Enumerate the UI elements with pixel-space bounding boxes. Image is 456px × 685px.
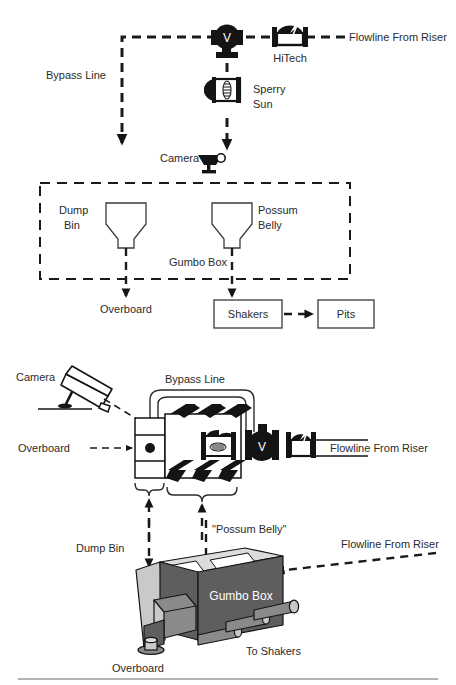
gumbo-box-label-3d: Gumbo Box	[209, 589, 272, 603]
dump-bin-funnel-icon	[106, 203, 146, 248]
gumbo-box-label-top: Gumbo Box	[169, 256, 228, 268]
hitech-meter-icon	[272, 23, 308, 47]
overboard-label-3d: Overboard	[112, 662, 164, 674]
gumbo-box-3d-icon: Gumbo Box	[136, 548, 299, 654]
diagram-svg: Flowline From Riser Bypass Line V Hi	[0, 0, 456, 685]
valve-icon: V	[245, 424, 279, 461]
flowline-to-box-dash	[277, 553, 436, 571]
possum-belly-label-bottom: "Possum Belly"	[212, 523, 287, 535]
sperry-sun-label-line1: Sperry	[253, 83, 286, 95]
bypass-line-label-bottom: Bypass Line	[165, 373, 225, 385]
flowline-from-riser-label-box: Flowline From Riser	[341, 538, 439, 550]
dump-bin-label-line1: Dump	[59, 204, 88, 216]
brace-dump-bin	[135, 483, 164, 496]
valve-symbol-label: V	[223, 31, 231, 45]
sperry-sun-label-line2: Sun	[253, 98, 273, 110]
flowline-from-riser-label-pipe: Flowline From Riser	[330, 442, 428, 454]
to-shakers-label: To Shakers	[246, 645, 302, 657]
camera-label-bottom: Camera	[16, 371, 56, 383]
bypass-line-label: Bypass Line	[46, 69, 106, 81]
figure-canvas: Flowline From Riser Bypass Line V Hi	[0, 0, 456, 685]
top-schematic-group: Flowline From Riser Bypass Line V Hi	[40, 23, 447, 328]
possum-belly-funnel-icon	[212, 203, 252, 248]
camera-icon	[198, 154, 225, 174]
possum-belly-label-line2: Belly	[258, 219, 282, 231]
overboard-label-top: Overboard	[100, 303, 152, 315]
shakers-label: Shakers	[228, 308, 269, 320]
sensor-coil-icon	[223, 81, 231, 99]
flowline-from-riser-label: Flowline From Riser	[349, 31, 447, 43]
camera-label-top: Camera	[160, 152, 200, 164]
sperry-sun-sensor-icon	[204, 77, 241, 103]
valve-symbol-label-bottom: V	[258, 440, 266, 454]
bypass-line-dash	[122, 37, 216, 143]
brace-possum-belly	[167, 487, 237, 502]
dump-bin-label-bottom: Dump Bin	[76, 542, 124, 554]
hitech-meter-icon	[286, 430, 316, 458]
valve-icon: V	[211, 25, 243, 59]
overboard-port-icon	[145, 443, 155, 453]
pits-label: Pits	[337, 308, 356, 320]
bottom-pictorial-group: Camera Bypass Line Overboard	[16, 366, 439, 674]
dump-bin-label-line2: Bin	[64, 219, 80, 231]
hitech-label: HiTech	[273, 52, 307, 64]
possum-belly-label-line1: Possum	[258, 204, 298, 216]
overboard-label-bottom: Overboard	[18, 442, 70, 454]
